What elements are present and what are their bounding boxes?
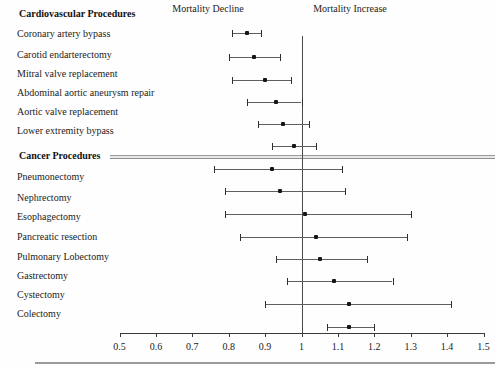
row-label: Cystectomy <box>17 288 65 299</box>
ci-cap-low <box>276 256 277 263</box>
x-axis-tick <box>484 333 485 337</box>
point-estimate-marker <box>252 55 256 59</box>
ci-cap-high <box>280 54 281 61</box>
ci-line <box>225 191 345 192</box>
row-label: Coronary artery bypass <box>17 28 110 39</box>
ci-cap-low <box>265 301 266 308</box>
ci-cap-high <box>367 256 368 263</box>
ci-cap-low <box>232 77 233 84</box>
group-header-label: Cardiovascular Procedures <box>19 8 135 19</box>
ci-cap-high <box>411 211 412 218</box>
x-axis-tick-label: 0.5 <box>113 341 126 352</box>
point-estimate-marker <box>274 100 278 104</box>
row-label: Pancreatic resection <box>17 231 97 242</box>
forest-plot-figure: Mortality Decline Mortality Increase 0.5… <box>0 0 495 369</box>
ci-cap-high <box>393 278 394 285</box>
point-estimate-marker <box>278 189 282 193</box>
x-axis-tick <box>229 333 230 337</box>
row-label: Colectomy <box>17 308 61 319</box>
x-axis-tick-label: 0.9 <box>259 341 272 352</box>
reference-line <box>302 36 303 334</box>
point-estimate-marker <box>263 78 267 82</box>
x-axis-tick <box>302 333 303 337</box>
ci-cap-low <box>232 30 233 37</box>
x-axis-tick-label: 1.1 <box>332 341 345 352</box>
point-estimate-marker <box>303 212 307 216</box>
point-estimate-marker <box>347 325 351 329</box>
x-axis-tick <box>447 333 448 337</box>
row-label: Lower extremity bypass <box>17 125 114 136</box>
ci-cap-high <box>407 234 408 241</box>
ci-line <box>287 281 393 282</box>
ci-cap-high <box>302 99 303 106</box>
column-header-mortality-increase: Mortality Increase <box>313 3 387 14</box>
ci-cap-high <box>451 301 452 308</box>
ci-cap-high <box>309 121 310 128</box>
point-estimate-marker <box>292 144 296 148</box>
ci-line <box>225 214 411 215</box>
ci-cap-low <box>240 234 241 241</box>
ci-cap-high <box>261 30 262 37</box>
x-axis-tick <box>338 333 339 337</box>
row-label: Carotid endarterectomy <box>17 48 112 59</box>
row-label: Gastrectomy <box>17 270 68 281</box>
x-axis-tick-label: 1.3 <box>404 341 417 352</box>
point-estimate-marker <box>347 302 351 306</box>
ci-cap-low <box>258 121 259 128</box>
x-axis-tick-label: 1.5 <box>477 341 490 352</box>
ci-cap-low <box>214 166 215 173</box>
x-axis-tick <box>265 333 266 337</box>
point-estimate-marker <box>314 235 318 239</box>
x-axis-tick <box>192 333 193 337</box>
point-estimate-marker <box>245 31 249 35</box>
ci-line <box>240 237 407 238</box>
x-axis-tick-label: 0.6 <box>150 341 163 352</box>
ci-cap-high <box>316 143 317 150</box>
row-label: Abdominal aortic aneurysm repair <box>17 87 154 98</box>
ci-cap-low <box>272 143 273 150</box>
ci-cap-low <box>327 324 328 331</box>
x-axis-tick-label: 1.2 <box>368 341 381 352</box>
ci-cap-high <box>374 324 375 331</box>
ci-line <box>265 304 451 305</box>
x-axis-tick-label: 1 <box>299 341 304 352</box>
point-estimate-marker <box>270 167 274 171</box>
x-axis-tick <box>374 333 375 337</box>
row-label: Aortic valve replacement <box>17 106 118 117</box>
group-separator-rule <box>110 155 495 159</box>
point-estimate-marker <box>332 279 336 283</box>
x-axis-tick-label: 1.4 <box>441 341 454 352</box>
row-label: Pulmonary Lobectomy <box>17 251 109 262</box>
row-label: Esophagectomy <box>17 211 81 222</box>
row-label: Mitral valve replacement <box>17 67 118 78</box>
ci-cap-high <box>291 77 292 84</box>
ci-line <box>214 169 341 170</box>
x-axis-tick <box>156 333 157 337</box>
ci-cap-low <box>225 211 226 218</box>
group-header-label: Cancer Procedures <box>19 150 100 161</box>
ci-cap-low <box>287 278 288 285</box>
row-label: Nephrectomy <box>17 191 71 202</box>
row-label: Pneumonectomy <box>17 171 84 182</box>
point-estimate-marker <box>281 122 285 126</box>
figure-bottom-rule <box>35 362 495 364</box>
ci-cap-high <box>342 166 343 173</box>
x-axis-tick-label: 0.8 <box>222 341 235 352</box>
x-axis-tick-label: 0.7 <box>186 341 199 352</box>
x-axis-tick <box>411 333 412 337</box>
ci-cap-low <box>225 188 226 195</box>
point-estimate-marker <box>318 257 322 261</box>
ci-cap-low <box>229 54 230 61</box>
ci-cap-high <box>345 188 346 195</box>
column-header-mortality-decline: Mortality Decline <box>172 3 243 14</box>
x-axis-tick <box>120 333 121 337</box>
ci-line <box>232 80 290 81</box>
ci-cap-low <box>247 99 248 106</box>
